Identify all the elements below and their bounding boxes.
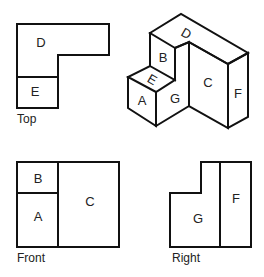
iso-face-a-label: A [138,93,147,108]
front-face-a-label: A [34,209,43,224]
iso-face-e-label: E [145,71,160,88]
front-face-b-label: B [34,171,43,186]
iso-face-b-label: B [159,50,168,65]
right-view-caption: Right [172,251,201,265]
front-view-caption: Front [17,251,46,265]
iso-face-c-label: C [203,75,212,90]
top-face-e-label: E [31,84,40,99]
front-view-outline [17,162,119,247]
right-face-f-label: F [232,191,240,206]
top-face-d-label: D [36,35,45,50]
iso-face-g-label: G [170,91,180,106]
front-view: B A C Front [17,162,119,265]
isometric-view: D B E A G C F [128,14,248,128]
right-face-g-label: G [193,211,203,226]
top-view: D E Top [17,24,109,126]
top-view-caption: Top [17,112,37,126]
right-view: G F Right [170,162,251,265]
orthographic-projection-diagram: D E Top D B E A G C F B A C Front [0,0,264,277]
front-face-c-label: C [85,194,94,209]
iso-face-f-label: F [234,86,242,101]
iso-face-d-label: D [178,25,194,43]
